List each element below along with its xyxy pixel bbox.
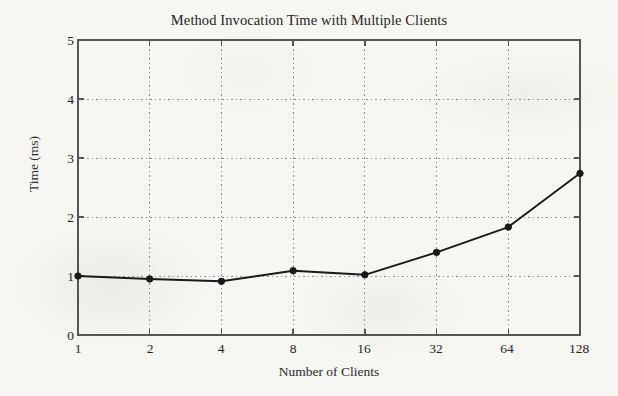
gridlines bbox=[78, 40, 580, 335]
x-axis-label: Number of Clients bbox=[78, 364, 580, 380]
y-tick-label-5: 5 bbox=[52, 33, 74, 49]
axis-frame bbox=[78, 40, 580, 335]
figure-canvas: Method Invocation Time with Multiple Cli… bbox=[0, 0, 618, 396]
y-tick-label-1: 1 bbox=[52, 269, 74, 285]
x-tick-label-1: 1 bbox=[58, 341, 98, 357]
chart-title: Method Invocation Time with Multiple Cli… bbox=[0, 12, 618, 29]
x-tick-label-4: 4 bbox=[201, 341, 241, 357]
x-tick-label-8: 8 bbox=[273, 341, 313, 357]
x-tick-label-128: 128 bbox=[559, 341, 599, 357]
plot-area bbox=[0, 0, 618, 396]
x-tick-label-2: 2 bbox=[130, 341, 170, 357]
axis-ticks bbox=[78, 40, 580, 335]
y-tick-label-2: 2 bbox=[52, 210, 74, 226]
x-tick-label-64: 64 bbox=[487, 341, 527, 357]
x-tick-label-16: 16 bbox=[344, 341, 384, 357]
data-markers bbox=[75, 170, 583, 284]
x-tick-label-32: 32 bbox=[416, 341, 456, 357]
y-axis-label: Time (ms) bbox=[26, 104, 42, 224]
y-tick-label-4: 4 bbox=[52, 92, 74, 108]
y-tick-label-3: 3 bbox=[52, 151, 74, 167]
